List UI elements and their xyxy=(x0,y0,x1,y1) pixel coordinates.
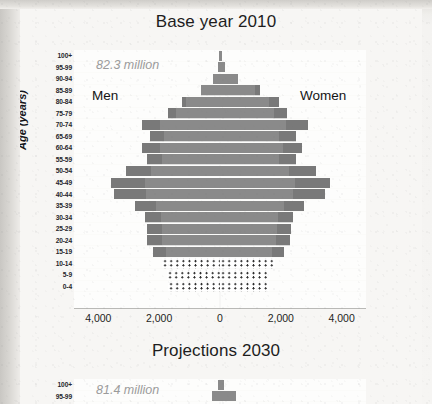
bar-shading xyxy=(274,108,287,118)
pyramid-bar-women xyxy=(220,235,290,245)
bar-shading xyxy=(145,212,161,222)
pyramid-bar-women xyxy=(220,51,222,61)
pyramid-bar-women xyxy=(220,178,330,188)
age-group-label: 5-9 xyxy=(40,269,72,281)
bar-shading xyxy=(142,143,159,153)
age-group-label: 25-29 xyxy=(40,223,72,235)
age-group-label: 60-64 xyxy=(40,142,72,154)
age-group-label: 30-34 xyxy=(40,212,72,224)
bar-shading xyxy=(147,154,162,164)
age-group-label: 50-54 xyxy=(40,165,72,177)
pyramid-bar-women xyxy=(220,166,316,176)
age-group-label: 45-49 xyxy=(40,177,72,189)
pyramid-bar-women xyxy=(220,212,293,222)
pyramid-bar-women xyxy=(220,85,260,95)
bar-shading xyxy=(147,235,162,245)
age-group-label: 75-79 xyxy=(40,108,72,120)
pyramid-bar-women xyxy=(220,258,275,268)
pyramid-row xyxy=(74,235,366,247)
chart-title-projections: Projections 2030 xyxy=(0,341,432,361)
age-group-label: 35-39 xyxy=(40,200,72,212)
pyramid-bar-men xyxy=(111,178,221,188)
pyramid-row xyxy=(74,269,366,281)
pyramid-bar-women xyxy=(220,391,236,401)
age-group-label: 90-94 xyxy=(40,73,72,85)
row-separator xyxy=(74,291,366,292)
pyramid-bar-men xyxy=(213,74,220,84)
age-group-label: 95-99 xyxy=(40,62,72,74)
bar-shading xyxy=(276,235,290,245)
pyramid-bar-men xyxy=(126,166,220,176)
age-group-label: 80-84 xyxy=(40,96,72,108)
pyramid-bar-men xyxy=(212,391,220,401)
bar-shading xyxy=(269,97,279,107)
pyramid-bar-men xyxy=(142,143,220,153)
pyramid-bar-women xyxy=(220,62,225,72)
pyramid-bar-men xyxy=(201,85,220,95)
bar-shading xyxy=(150,131,164,141)
total-population-2030: 81.4 million xyxy=(96,383,159,397)
pyramid-bar-men xyxy=(147,224,220,234)
bar-shading xyxy=(111,178,145,188)
bar-shading xyxy=(147,224,162,234)
chart-title-base-year: Base year 2010 xyxy=(0,12,432,32)
pyramid-row xyxy=(74,246,366,258)
bar-shading xyxy=(126,166,152,176)
pyramid-bar-men xyxy=(168,108,220,118)
pyramid-row xyxy=(74,189,366,201)
age-group-label: 100+ xyxy=(40,50,72,62)
pyramid-row xyxy=(74,73,366,85)
bar-shading xyxy=(277,224,292,234)
age-group-label: 65-69 xyxy=(40,131,72,143)
pyramid-row xyxy=(74,154,366,166)
x-axis-line xyxy=(74,308,366,309)
pyramid-bar-men xyxy=(167,270,220,280)
scanned-page: Base year 2010 Age (years) 100+95-9990-9… xyxy=(0,0,432,404)
x-axis-tick: 4,000 xyxy=(329,312,355,324)
pyramid-row xyxy=(74,119,366,131)
pyramid-bar-men xyxy=(142,120,220,130)
x-axis-tick-labels: 4,0002,00002,0004,000 xyxy=(74,312,366,328)
women-label: Women xyxy=(300,88,346,103)
pyramid-row xyxy=(74,200,366,212)
bar-shading xyxy=(286,120,308,130)
row-separator xyxy=(74,401,366,402)
bar-shading xyxy=(153,247,166,257)
bar-shading xyxy=(279,131,296,141)
pyramid-bar-women xyxy=(220,108,287,118)
y-axis-title: Age (years) xyxy=(16,90,28,150)
pyramid-row xyxy=(74,223,366,235)
pyramid-bar-men xyxy=(147,154,220,164)
pyramid-bar-men xyxy=(147,235,220,245)
bar-shading xyxy=(182,97,186,107)
bar-shading xyxy=(168,108,176,118)
pyramid-bar-men xyxy=(182,97,220,107)
pyramid-row xyxy=(74,212,366,224)
pyramid-bar-women xyxy=(220,380,224,390)
pyramid-bar-women xyxy=(220,131,296,141)
men-label: Men xyxy=(92,88,118,103)
x-axis-tick: 0 xyxy=(217,312,223,324)
pyramid-row xyxy=(74,281,366,293)
age-group-label: 0-4 xyxy=(40,281,72,293)
bar-shading xyxy=(278,212,293,222)
pyramid-bar-men xyxy=(145,212,220,222)
x-axis-tick: 4,000 xyxy=(85,312,111,324)
pyramid-bar-men xyxy=(153,247,220,257)
x-axis-tick: 2,000 xyxy=(268,312,294,324)
bar-shading xyxy=(283,143,302,153)
pyramid-row xyxy=(74,131,366,143)
pyramid-bar-men xyxy=(114,189,220,199)
pyramid-bar-women xyxy=(220,201,304,211)
pyramid-bar-men xyxy=(150,131,220,141)
pyramid-row xyxy=(74,165,366,177)
age-group-labels: 100+95-9990-9485-8980-8475-7970-7465-696… xyxy=(40,50,72,292)
age-group-label: 100+ xyxy=(40,379,72,391)
bar-shading xyxy=(135,201,156,211)
age-group-label: 55-59 xyxy=(40,154,72,166)
pyramid-bar-women xyxy=(220,74,238,84)
x-axis-tick: 2,000 xyxy=(146,312,172,324)
age-group-labels-projections: 100+95-99 xyxy=(40,379,72,402)
bar-shading xyxy=(272,247,284,257)
pyramid-bar-women xyxy=(220,97,279,107)
